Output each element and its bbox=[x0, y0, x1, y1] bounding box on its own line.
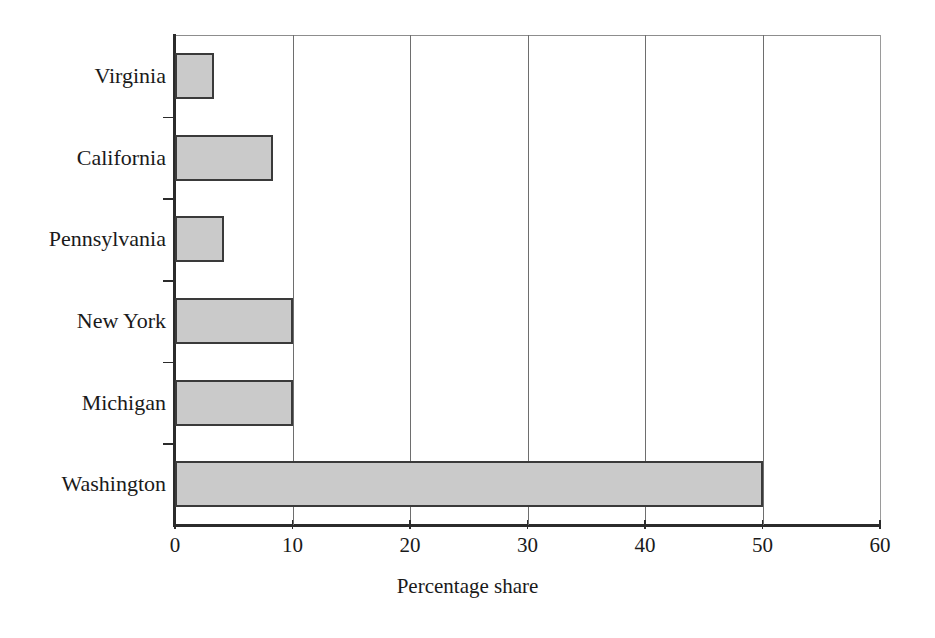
y-tick-mark-1 bbox=[163, 117, 174, 119]
bar-chart-figure: 0102030405060 VirginiaCaliforniaPennsylv… bbox=[0, 0, 935, 638]
bar-virginia bbox=[175, 53, 214, 99]
y-axis-label-california: California bbox=[77, 145, 166, 171]
x-tick-label-0: 0 bbox=[145, 532, 205, 558]
gridline-20 bbox=[410, 35, 411, 525]
y-tick-mark-4 bbox=[163, 362, 174, 364]
x-tick-label-30: 30 bbox=[498, 532, 558, 558]
y-axis-label-new-york: New York bbox=[77, 308, 166, 334]
x-tick-mark-0 bbox=[174, 520, 176, 529]
x-tick-label-50: 50 bbox=[733, 532, 793, 558]
y-axis-label-michigan: Michigan bbox=[82, 390, 166, 416]
bar-washington bbox=[175, 461, 763, 507]
bar-california bbox=[175, 135, 273, 181]
x-tick-label-40: 40 bbox=[615, 532, 675, 558]
gridline-40 bbox=[645, 35, 646, 525]
bar-new-york bbox=[175, 298, 293, 344]
gridline-60 bbox=[880, 35, 881, 525]
y-axis-label-virginia: Virginia bbox=[94, 63, 166, 89]
x-tick-mark-30 bbox=[527, 520, 529, 529]
gridline-10 bbox=[293, 35, 294, 525]
gridline-30 bbox=[528, 35, 529, 525]
x-tick-mark-40 bbox=[644, 520, 646, 529]
x-tick-mark-50 bbox=[762, 520, 764, 529]
x-tick-mark-60 bbox=[879, 520, 881, 529]
y-axis-label-washington: Washington bbox=[61, 471, 166, 497]
bar-michigan bbox=[175, 380, 293, 426]
y-tick-mark-3 bbox=[163, 280, 174, 282]
x-tick-mark-10 bbox=[292, 520, 294, 529]
x-axis-title: Percentage share bbox=[0, 573, 935, 599]
y-axis-label-pennsylvania: Pennsylvania bbox=[49, 226, 166, 252]
x-tick-label-20: 20 bbox=[380, 532, 440, 558]
y-tick-mark-5 bbox=[163, 443, 174, 445]
y-tick-mark-2 bbox=[163, 198, 174, 200]
x-tick-label-10: 10 bbox=[263, 532, 323, 558]
gridline-50 bbox=[763, 35, 764, 525]
x-tick-mark-20 bbox=[409, 520, 411, 529]
bar-pennsylvania bbox=[175, 216, 224, 262]
x-tick-label-60: 60 bbox=[850, 532, 910, 558]
